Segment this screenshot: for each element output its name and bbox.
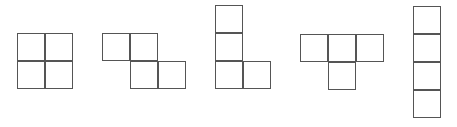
square-cell: [215, 33, 243, 61]
square-cell: [158, 61, 186, 89]
square-cell: [356, 34, 384, 62]
square-cell: [413, 34, 441, 62]
square-cell: [413, 90, 441, 118]
square-cell: [17, 33, 45, 61]
square-cell: [328, 62, 356, 90]
square-cell: [328, 34, 356, 62]
square-cell: [300, 34, 328, 62]
square-cell: [17, 61, 45, 89]
square-cell: [45, 33, 73, 61]
square-cell: [413, 62, 441, 90]
square-cell: [243, 61, 271, 89]
square-cell: [215, 61, 243, 89]
square-cell: [102, 33, 130, 61]
square-cell: [130, 61, 158, 89]
square-cell: [413, 6, 441, 34]
square-cell: [130, 33, 158, 61]
square-cell: [215, 5, 243, 33]
square-cell: [45, 61, 73, 89]
